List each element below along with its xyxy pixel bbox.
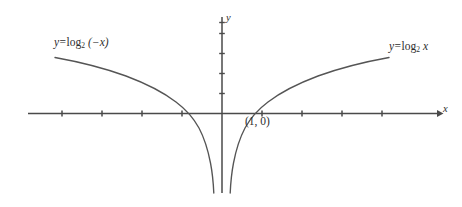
left-label-fn: log: [67, 36, 82, 48]
graph-canvas: [0, 0, 462, 207]
right-label-arg: x: [423, 40, 428, 52]
left-label-equals: =: [59, 36, 67, 48]
curve-log2-negative-x: [55, 58, 214, 194]
right-curve-equation-label: y=log2x: [389, 41, 428, 53]
right-label-equals: =: [394, 40, 402, 52]
right-label-base: 2: [416, 45, 420, 54]
intercept-point-label: (1, 0): [245, 116, 270, 128]
log-function-graph-figure: y=log2(−x) y=log2x (1, 0) x y: [0, 0, 462, 207]
left-label-base: 2: [81, 41, 85, 50]
left-label-arg: (−x): [88, 36, 109, 48]
left-curve-equation-label: y=log2(−x): [54, 37, 109, 49]
right-label-fn: log: [402, 40, 417, 52]
x-axis-label: x: [443, 104, 448, 115]
y-axis-label: y: [226, 13, 231, 24]
